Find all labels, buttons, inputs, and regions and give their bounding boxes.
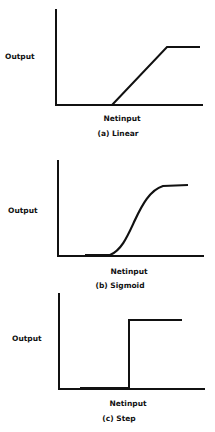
x-axis-label: Netinput: [110, 267, 148, 276]
caption: (a) Linear: [97, 129, 138, 138]
activation-functions-diagram: Output Netinput (a) Linear Output Netinp…: [0, 0, 215, 432]
sigmoid-curve: [85, 185, 188, 255]
panel-sigmoid: Output Netinput (b) Sigmoid: [8, 160, 204, 290]
caption: (b) Sigmoid: [95, 281, 144, 290]
linear-curve: [112, 47, 200, 105]
y-axis-label: Output: [8, 206, 38, 215]
y-axis-label: Output: [5, 52, 35, 61]
panel-linear: Output Netinput (a) Linear: [5, 9, 203, 138]
y-axis-label: Output: [12, 334, 42, 343]
panel-step: Output Netinput (c) Step: [12, 293, 205, 423]
step-curve: [80, 320, 182, 388]
x-axis-label: Netinput: [103, 114, 141, 123]
caption: (c) Step: [102, 414, 136, 423]
x-axis-label: Netinput: [109, 399, 147, 408]
